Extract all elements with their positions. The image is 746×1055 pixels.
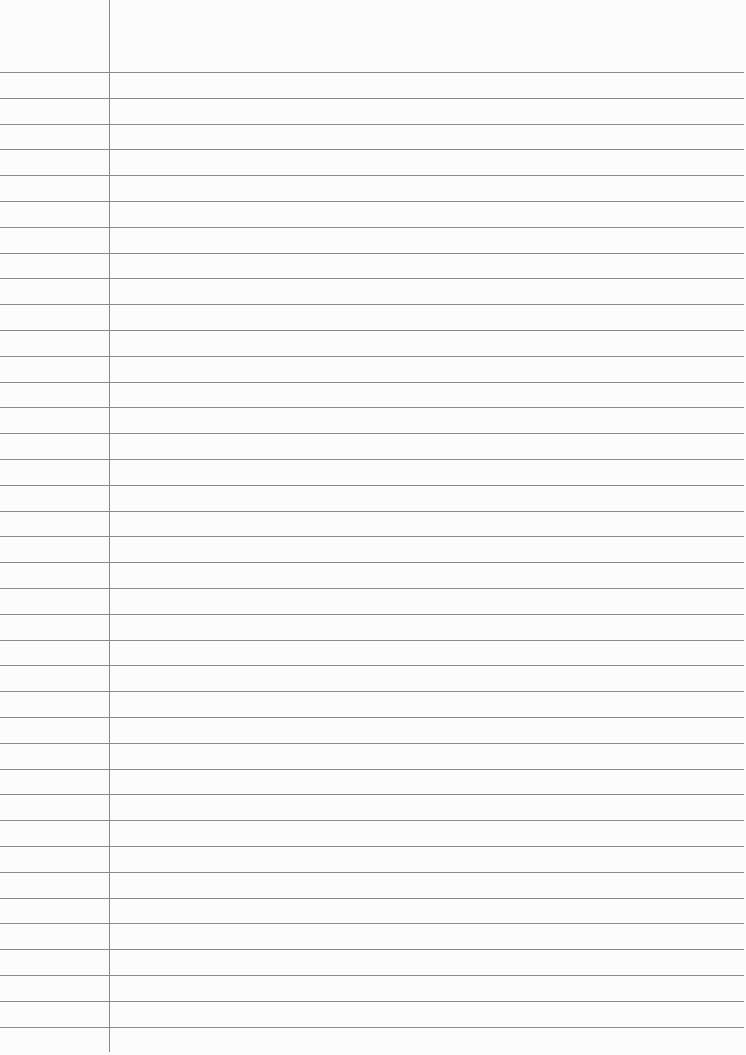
ruled-line	[0, 1001, 744, 1002]
ruled-line	[0, 536, 744, 537]
ruled-line	[0, 278, 744, 279]
ruled-line	[0, 407, 744, 408]
ruled-line	[0, 511, 744, 512]
ruled-line	[0, 923, 744, 924]
ruled-line	[0, 304, 744, 305]
ruled-line	[0, 72, 744, 73]
lined-paper	[0, 0, 746, 1055]
ruled-line	[0, 149, 744, 150]
ruled-line	[0, 614, 744, 615]
ruled-line	[0, 691, 744, 692]
ruled-line	[0, 846, 744, 847]
ruled-line	[0, 382, 744, 383]
ruled-line	[0, 562, 744, 563]
margin-line	[109, 0, 110, 1052]
ruled-line	[0, 485, 744, 486]
ruled-line	[0, 898, 744, 899]
ruled-line	[0, 356, 744, 357]
ruled-line	[0, 640, 744, 641]
ruled-line	[0, 872, 744, 873]
ruled-line	[0, 949, 744, 950]
ruled-line	[0, 201, 744, 202]
ruled-line	[0, 743, 744, 744]
ruled-line	[0, 769, 744, 770]
ruled-line	[0, 794, 744, 795]
ruled-line	[0, 124, 744, 125]
ruled-line	[0, 820, 744, 821]
ruled-line	[0, 459, 744, 460]
ruled-line	[0, 665, 744, 666]
ruled-line	[0, 433, 744, 434]
ruled-line	[0, 717, 744, 718]
ruled-line	[0, 1027, 744, 1028]
ruled-line	[0, 330, 744, 331]
ruled-line	[0, 588, 744, 589]
ruled-line	[0, 227, 744, 228]
ruled-line	[0, 175, 744, 176]
ruled-line	[0, 98, 744, 99]
ruled-line	[0, 253, 744, 254]
ruled-line	[0, 975, 744, 976]
